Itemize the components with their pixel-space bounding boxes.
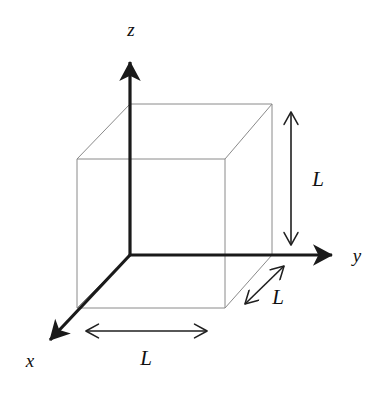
axis-label-z: z — [126, 19, 135, 40]
cube-diagram-canvas: z y x L L L — [0, 0, 390, 397]
axis-label-x: x — [25, 350, 35, 371]
dimension-label-width: L — [139, 346, 152, 370]
dimension-label-height: L — [311, 167, 324, 191]
figure-container: z y x L L L — [0, 0, 390, 397]
dimension-label-depth: L — [271, 285, 284, 309]
axis-label-y: y — [351, 245, 362, 266]
canvas-background — [0, 0, 390, 397]
